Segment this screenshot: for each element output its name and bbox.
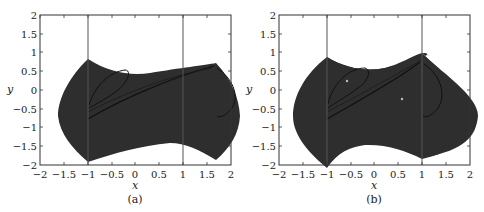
ytick-b: −0.5 bbox=[252, 104, 276, 115]
caption-a: (a) bbox=[127, 193, 142, 206]
ytick-a: 1 bbox=[31, 47, 37, 58]
ytick-a: −1.5 bbox=[13, 141, 37, 152]
xtick-b: 2 bbox=[467, 169, 473, 180]
xtick-b: 1.5 bbox=[438, 169, 454, 180]
caption-b: (b) bbox=[366, 193, 382, 206]
hole-b-2 bbox=[401, 98, 403, 100]
ytick-a: 2 bbox=[31, 10, 37, 21]
xtick-b: −1 bbox=[320, 169, 335, 180]
hole-b-1 bbox=[346, 80, 348, 82]
xtick-b: −0.5 bbox=[339, 169, 363, 180]
ytick-a: −2 bbox=[22, 160, 37, 171]
ytick-b: −2 bbox=[261, 160, 276, 171]
xtick-b: 1 bbox=[419, 169, 425, 180]
panel-a: −2 −1.5 −1 −0.5 0 0.5 1 1.5 2 2 1.5 1 0.… bbox=[6, 10, 240, 206]
region-fill-a bbox=[58, 59, 240, 162]
region-fill-b-main bbox=[293, 53, 469, 168]
ylabel-b: y bbox=[245, 83, 253, 96]
xtick-a: −0.5 bbox=[100, 169, 124, 180]
xtick-b: −1.5 bbox=[291, 169, 315, 180]
ytick-b: 1 bbox=[270, 47, 276, 58]
ytick-b: 1.5 bbox=[260, 29, 276, 40]
xtick-b: 0.5 bbox=[390, 169, 406, 180]
ytick-b: 0.5 bbox=[260, 66, 276, 77]
xtick-a: −1 bbox=[81, 169, 96, 180]
xtick-a: 1 bbox=[180, 169, 186, 180]
ytick-a: 0 bbox=[31, 85, 37, 96]
ytick-a: 1.5 bbox=[21, 29, 37, 40]
panel-b: −2 −1.5 −1 −0.5 0 0.5 1 1.5 2 2 1.5 1 0.… bbox=[245, 10, 478, 206]
figure: −2 −1.5 −1 −0.5 0 0.5 1 1.5 2 2 1.5 1 0.… bbox=[0, 0, 484, 212]
ytick-a: −0.5 bbox=[13, 104, 37, 115]
xtick-a: −1.5 bbox=[52, 169, 76, 180]
ytick-b: 0 bbox=[270, 85, 276, 96]
xtick-a: 0.5 bbox=[151, 169, 167, 180]
xtick-a: 1.5 bbox=[199, 169, 215, 180]
xtick-a: 2 bbox=[228, 169, 234, 180]
ytick-a: −1 bbox=[22, 122, 37, 133]
xlabel-b: x bbox=[371, 179, 378, 192]
ytick-a: 0.5 bbox=[21, 66, 37, 77]
ytick-b: 2 bbox=[270, 10, 276, 21]
ylabel-a: y bbox=[6, 83, 14, 96]
xlabel-a: x bbox=[132, 179, 139, 192]
ytick-b: −1 bbox=[261, 122, 276, 133]
ytick-b: −1.5 bbox=[252, 141, 276, 152]
